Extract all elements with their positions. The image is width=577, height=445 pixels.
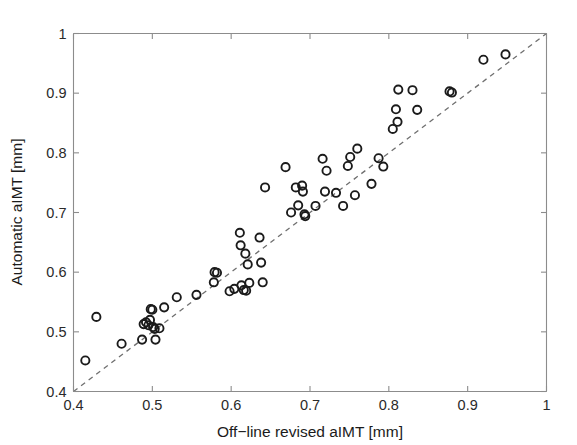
data-point-marker: [237, 241, 245, 249]
data-point-marker: [173, 293, 181, 301]
x-tick-label: 0.5: [142, 397, 162, 413]
data-point-marker: [392, 105, 400, 113]
y-tick-label: 1: [58, 26, 66, 42]
data-point-marker: [479, 56, 487, 64]
data-point-marker: [346, 153, 354, 161]
identity-reference-line: [74, 34, 547, 392]
data-point-marker: [81, 356, 89, 364]
x-tick-label: 0.7: [300, 397, 320, 413]
data-point-marker: [344, 162, 352, 170]
data-point-marker: [257, 259, 265, 267]
data-points-layer: [81, 50, 509, 364]
data-point-marker: [367, 180, 375, 188]
y-tick-label: 0.8: [46, 145, 66, 161]
data-point-marker: [259, 278, 267, 286]
data-point-marker: [501, 50, 509, 58]
data-point-marker: [281, 163, 289, 171]
data-point-marker: [321, 188, 329, 196]
scatter-plot-figure: 0.40.50.60.70.80.91 0.40.50.60.70.80.91 …: [0, 0, 577, 445]
data-point-marker: [160, 303, 168, 311]
data-point-marker: [393, 118, 401, 126]
x-tick-label: 0.6: [221, 397, 241, 413]
data-point-marker: [294, 201, 302, 209]
data-point-marker: [255, 233, 263, 241]
x-tick-label: 0.8: [379, 397, 399, 413]
data-point-marker: [92, 313, 100, 321]
data-point-marker: [408, 86, 416, 94]
data-point-marker: [117, 340, 125, 348]
data-point-marker: [236, 229, 244, 237]
x-tick-label: 1: [542, 397, 550, 413]
data-point-marker: [245, 279, 253, 287]
y-tick-label: 0.7: [46, 205, 66, 221]
data-point-marker: [210, 278, 218, 286]
x-axis-tick-labels: 0.40.50.60.70.80.91: [63, 397, 550, 413]
data-point-marker: [322, 167, 330, 175]
y-tick-label: 0.4: [46, 384, 66, 400]
y-axis-tick-labels: 0.40.50.60.70.80.91: [46, 26, 66, 400]
data-point-marker: [151, 335, 159, 343]
data-point-marker: [339, 202, 347, 210]
chart-canvas: 0.40.50.60.70.80.91 0.40.50.60.70.80.91 …: [0, 0, 577, 445]
data-point-marker: [353, 145, 361, 153]
data-point-marker: [244, 260, 252, 268]
data-point-marker: [394, 85, 402, 93]
data-point-marker: [332, 189, 340, 197]
y-tick-label: 0.6: [46, 264, 66, 280]
data-point-marker: [351, 191, 359, 199]
data-point-marker: [241, 250, 249, 258]
y-axis-title: Automatic aIMT [mm]: [8, 139, 25, 286]
data-point-marker: [261, 183, 269, 191]
data-point-marker: [379, 162, 387, 170]
y-tick-label: 0.5: [46, 324, 66, 340]
data-point-marker: [319, 155, 327, 163]
y-tick-label: 0.9: [46, 85, 66, 101]
data-point-marker: [413, 106, 421, 114]
x-tick-label: 0.9: [458, 397, 478, 413]
data-point-marker: [287, 208, 295, 216]
x-axis-title: Off−line revised aIMT [mm]: [217, 423, 403, 440]
identity-line: [74, 34, 547, 392]
